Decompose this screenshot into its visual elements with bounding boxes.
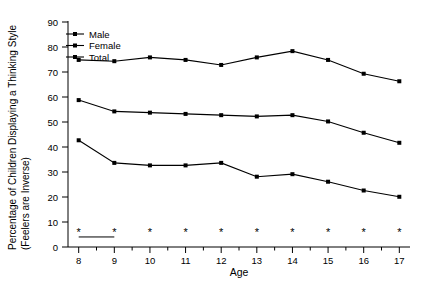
series-female (77, 98, 402, 145)
x-tick-label-15: 15 (323, 255, 334, 266)
significance-markers: ********** (77, 226, 403, 238)
data-point-marker (326, 119, 330, 123)
series-line (79, 51, 400, 81)
series-male (77, 138, 402, 199)
data-point-marker (148, 55, 152, 59)
series-line (79, 140, 400, 197)
legend-item-female[interactable]: Female (66, 40, 121, 51)
y-axis-tick-labels: 0 10 20 30 40 50 60 70 80 90 (47, 17, 58, 253)
data-point-marker (326, 180, 330, 184)
y-tick-label-70: 70 (47, 67, 58, 78)
data-point-marker (290, 49, 294, 53)
series-total (77, 49, 402, 83)
x-tick-label-9: 9 (112, 255, 117, 266)
y-axis-ticks (62, 22, 68, 247)
y-tick-label-90: 90 (47, 17, 58, 28)
data-point-marker (148, 163, 152, 167)
x-tick-label-10: 10 (145, 255, 156, 266)
data-point-marker (362, 189, 366, 193)
data-point-marker (219, 113, 223, 117)
y-tick-label-30: 30 (47, 167, 58, 178)
x-tick-label-17: 17 (394, 255, 405, 266)
x-axis-tick-labels: 891011121314151617 (76, 255, 405, 266)
y-tick-label-0: 0 (53, 242, 58, 253)
data-point-marker (184, 163, 188, 167)
significance-asterisk-age-8: * (77, 226, 82, 238)
significance-asterisk-age-17: * (397, 226, 402, 238)
data-point-marker (397, 195, 401, 199)
significance-asterisk-age-9: * (112, 226, 117, 238)
y-tick-label-10: 10 (47, 217, 58, 228)
y-axis-title-line2: (Feelers are Inverse) (20, 157, 31, 250)
y-tick-label-60: 60 (47, 92, 58, 103)
data-point-marker (397, 79, 401, 83)
x-tick-label-11: 11 (181, 255, 191, 266)
significance-asterisk-age-11: * (183, 226, 188, 238)
significance-asterisk-age-10: * (148, 226, 153, 238)
legend: MaleFemaleTotal (66, 29, 121, 63)
data-point-marker (290, 113, 294, 117)
x-tick-label-16: 16 (358, 255, 369, 266)
x-axis-ticks (79, 247, 400, 253)
y-tick-label-50: 50 (47, 117, 58, 128)
data-point-marker (255, 175, 259, 179)
series-line (79, 100, 400, 143)
data-point-marker (148, 111, 152, 115)
x-tick-label-12: 12 (216, 255, 227, 266)
y-axis-title-line1: Percentage of Children Displaying a Thin… (7, 25, 18, 250)
y-tick-label-20: 20 (47, 192, 58, 203)
significance-asterisk-age-16: * (362, 226, 367, 238)
legend-marker-swatch (73, 44, 77, 48)
legend-label: Male (89, 29, 110, 40)
x-tick-label-8: 8 (76, 255, 81, 266)
significance-asterisk-age-14: * (290, 226, 295, 238)
legend-item-total[interactable]: Total (66, 52, 109, 63)
significance-asterisk-age-15: * (326, 226, 331, 238)
data-point-marker (219, 161, 223, 165)
line-chart: Percentage of Children Displaying a Thin… (0, 0, 424, 284)
data-point-marker (77, 58, 81, 62)
data-point-marker (112, 109, 116, 113)
data-point-marker (77, 138, 81, 142)
data-point-marker (290, 172, 294, 176)
data-point-marker (397, 141, 401, 145)
legend-label: Total (89, 52, 109, 63)
x-axis-title: Age (230, 266, 249, 278)
legend-marker-swatch (73, 32, 77, 36)
data-point-marker (362, 72, 366, 76)
data-point-marker (255, 114, 259, 118)
data-point-marker (255, 55, 259, 59)
data-point-marker (77, 98, 81, 102)
data-point-marker (184, 58, 188, 62)
significance-asterisk-age-12: * (219, 226, 224, 238)
data-point-marker (112, 161, 116, 165)
significance-asterisk-age-13: * (255, 226, 260, 238)
series-layer (77, 49, 402, 199)
y-axis-title: Percentage of Children Displaying a Thin… (7, 25, 31, 250)
data-point-marker (326, 58, 330, 62)
x-tick-label-14: 14 (287, 255, 298, 266)
legend-item-male[interactable]: Male (66, 29, 110, 40)
chart-container: Percentage of Children Displaying a Thin… (0, 0, 424, 284)
y-tick-label-40: 40 (47, 142, 58, 153)
legend-label: Female (89, 40, 121, 51)
data-point-marker (219, 63, 223, 67)
y-tick-label-80: 80 (47, 42, 58, 53)
x-tick-label-13: 13 (252, 255, 263, 266)
data-point-marker (112, 59, 116, 63)
legend-marker-swatch (73, 55, 77, 59)
data-point-marker (362, 131, 366, 135)
data-point-marker (184, 112, 188, 116)
